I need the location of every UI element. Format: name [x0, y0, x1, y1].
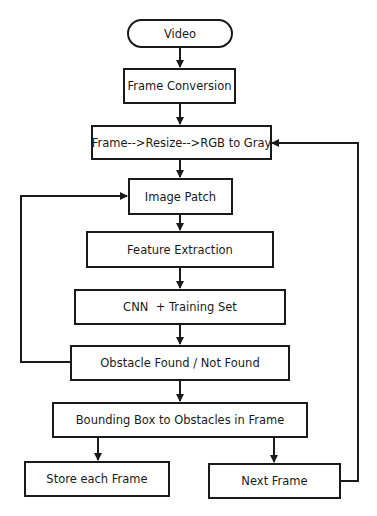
node-store-frame: Store each Frame — [24, 461, 170, 497]
node-image-patch: Image Patch — [128, 178, 233, 215]
node-label: Obstacle Found / Not Found — [100, 356, 259, 370]
node-feature-extraction: Feature Extraction — [86, 231, 274, 268]
node-preprocess: Frame-->Resize-->RGB to Gray — [91, 125, 272, 160]
node-label: Frame Conversion — [128, 79, 232, 93]
node-obstacle: Obstacle Found / Not Found — [70, 345, 290, 381]
node-label: Feature Extraction — [127, 243, 233, 257]
node-label: Next Frame — [241, 474, 307, 488]
node-bounding-box: Bounding Box to Obstacles in Frame — [52, 402, 308, 438]
node-label: Store each Frame — [46, 472, 147, 486]
node-next-frame: Next Frame — [208, 463, 341, 499]
node-cnn: CNN + Training Set — [74, 289, 286, 325]
node-label: Video — [164, 27, 196, 41]
node-label: CNN + Training Set — [123, 300, 237, 314]
node-frame-conversion: Frame Conversion — [123, 68, 236, 104]
node-video: Video — [127, 19, 233, 48]
node-label: Bounding Box to Obstacles in Frame — [76, 413, 285, 427]
node-label: Image Patch — [145, 190, 216, 204]
loop-obstacle-to-patch — [21, 196, 127, 362]
node-label: Frame-->Resize-->RGB to Gray — [92, 136, 272, 150]
